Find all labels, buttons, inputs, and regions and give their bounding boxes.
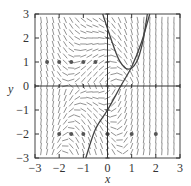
svg-text:−3: −3: [16, 151, 29, 165]
svg-text:−3: −3: [29, 161, 42, 175]
svg-text:−2: −2: [16, 127, 29, 141]
data-point: [81, 132, 85, 136]
svg-text:−2: −2: [53, 161, 66, 175]
data-point: [130, 132, 134, 136]
svg-text:0: 0: [23, 79, 29, 93]
y-axis-label: y: [7, 82, 14, 96]
data-point: [57, 132, 61, 136]
svg-text:3: 3: [177, 161, 183, 175]
data-point: [69, 60, 73, 64]
data-point: [45, 60, 49, 64]
data-point: [93, 60, 97, 64]
x-axis-label: x: [104, 172, 111, 186]
svg-text:2: 2: [23, 31, 29, 45]
svg-text:3: 3: [23, 7, 29, 21]
data-point: [81, 60, 85, 64]
data-point: [154, 132, 158, 136]
svg-text:−1: −1: [77, 161, 90, 175]
slope-field-chart: −3−2−10123 −3−2−10123 x y: [0, 0, 191, 186]
svg-text:1: 1: [129, 161, 135, 175]
data-point: [57, 60, 61, 64]
svg-text:−1: −1: [16, 103, 29, 117]
data-point: [69, 132, 73, 136]
svg-text:2: 2: [153, 161, 159, 175]
svg-text:1: 1: [23, 55, 29, 69]
y-tick-labels: −3−2−10123: [16, 7, 29, 165]
